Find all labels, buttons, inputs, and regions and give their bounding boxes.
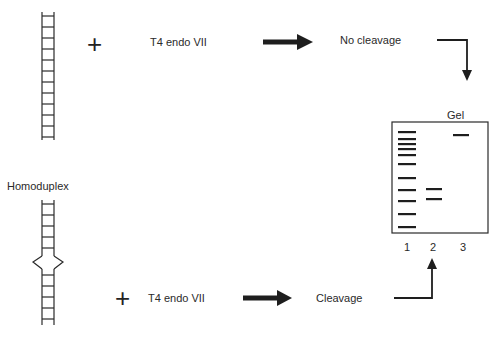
gel-lane-3-bands — [453, 134, 469, 136]
elbow-arrow-to-gel-lane-3 — [437, 40, 472, 81]
reaction-arrow-top — [263, 34, 313, 50]
gel-lane-2-label: 2 — [430, 242, 436, 253]
gel-lane-3-label: 3 — [460, 242, 466, 253]
plus-sign-bottom: + — [115, 285, 130, 311]
elbow-arrow-to-gel-lane-2 — [394, 258, 437, 298]
homoduplex-dna-ladder — [42, 12, 54, 140]
homoduplex-label: Homoduplex — [7, 181, 69, 192]
gel-lane-2-bands — [426, 188, 442, 200]
result-label-cleavage: Cleavage — [316, 293, 362, 304]
result-label-no-cleavage: No cleavage — [340, 35, 401, 46]
enzyme-label-top: T4 endo VII — [150, 37, 207, 48]
plus-sign-top: + — [87, 31, 102, 57]
gel-lane-1-label: 1 — [404, 242, 410, 253]
gel-lane-1-bands — [398, 131, 416, 228]
enzyme-label-bottom: T4 endo VII — [148, 293, 205, 304]
reaction-arrow-bottom — [243, 290, 292, 306]
heteroduplex-dna-ladder — [33, 200, 63, 325]
gel-title: Gel — [447, 110, 464, 121]
